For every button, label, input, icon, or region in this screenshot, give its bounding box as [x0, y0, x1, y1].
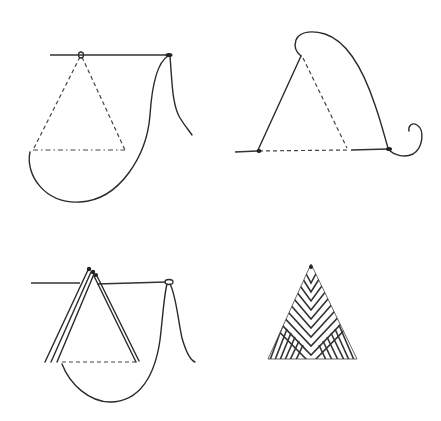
- thread-tail: [170, 284, 195, 362]
- fabric-line-right: [97, 282, 166, 284]
- step-3-panel: [31, 267, 195, 402]
- step-1-panel: [29, 52, 192, 202]
- needle-knot: [166, 53, 173, 57]
- thread-curl: [388, 124, 422, 156]
- stitch-diagram: [0, 0, 441, 421]
- first-stitch: [258, 56, 301, 150]
- left-stitch-1: [45, 270, 88, 362]
- apex-knot-3: [94, 273, 98, 277]
- fabric-line-right: [351, 149, 388, 150]
- step-4-panel: [248, 264, 374, 364]
- right-stitch-1: [94, 276, 136, 362]
- working-thread-loop: [29, 56, 168, 202]
- step-2-panel: [235, 32, 422, 156]
- right-stitch-2: [97, 276, 139, 361]
- apex-knot-2: [91, 270, 95, 274]
- stitch-end-knot: [257, 149, 262, 153]
- left-stitch-2: [51, 272, 91, 362]
- left-stitch-3: [57, 274, 94, 362]
- guide-right-edge: [303, 58, 347, 148]
- needle-knot: [386, 147, 392, 151]
- apex-knot-1: [87, 267, 91, 271]
- working-thread-loop: [295, 32, 388, 148]
- guide-left-edge: [33, 57, 80, 150]
- needle-eye: [165, 280, 173, 285]
- thread-tail: [170, 56, 192, 135]
- apex-knot: [309, 265, 313, 269]
- guide-base: [259, 150, 347, 151]
- guide-right-edge: [82, 57, 125, 150]
- fabric-line-left: [235, 151, 257, 152]
- filled-triangle: [248, 266, 374, 364]
